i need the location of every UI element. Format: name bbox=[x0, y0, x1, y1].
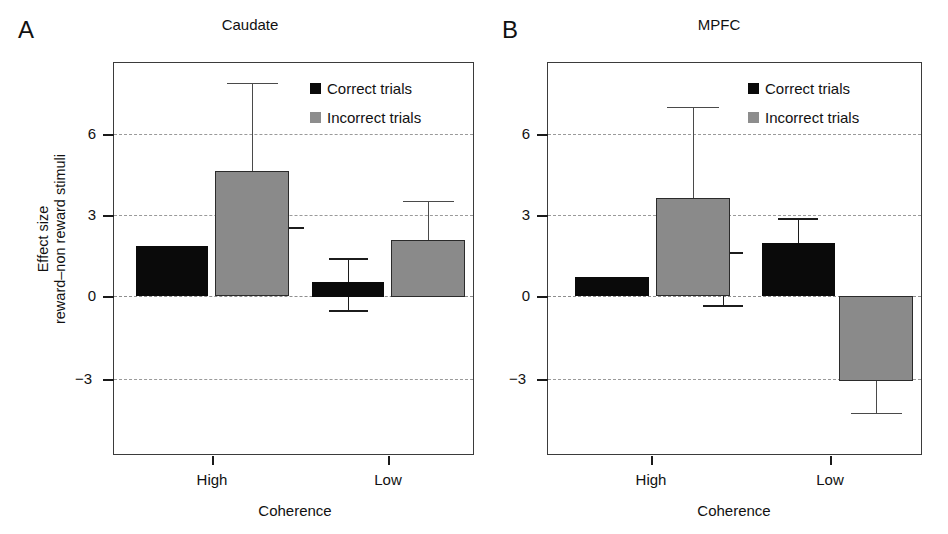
bar-correct-high-b bbox=[575, 277, 649, 296]
y-tick-label-0-b: 0 bbox=[496, 288, 530, 303]
y-tick-3-b bbox=[537, 215, 548, 217]
bar-incorrect-high-b bbox=[656, 198, 730, 296]
errorbar-incorrect-low-b bbox=[876, 381, 877, 413]
x-tick-high-a bbox=[212, 456, 214, 465]
plot-area-caudate: Correct trials Incorrect trials bbox=[113, 62, 474, 455]
errorbar-cap-upper-incorrect-high-a bbox=[227, 83, 278, 84]
legend-item-correct-a: Correct trials bbox=[310, 79, 421, 97]
bar-correct-high-a bbox=[136, 246, 208, 296]
errorbar-incorrect-high-b bbox=[693, 107, 694, 198]
panel-title-mpfc: MPFC bbox=[629, 17, 809, 32]
bar-correct-low-a bbox=[312, 282, 384, 297]
errorbar-cap-upper-incorrect-low-a bbox=[403, 201, 454, 202]
y-tick-label-6-a: 6 bbox=[62, 126, 96, 141]
x-axis-title-b: Coherence bbox=[644, 503, 824, 518]
y-tick-label-neg3-b: −3 bbox=[492, 371, 526, 386]
y-tick-label-3-a: 3 bbox=[62, 207, 96, 222]
x-tick-low-b bbox=[830, 456, 832, 465]
y-tick-label-neg3-a: −3 bbox=[58, 371, 92, 386]
gridline-3-a bbox=[114, 215, 473, 216]
panel-mpfc: B MPFC bbox=[474, 0, 948, 534]
legend-caudate: Correct trials Incorrect trials bbox=[310, 79, 421, 137]
x-tick-label-low-a: Low bbox=[343, 472, 433, 487]
legend-item-incorrect-b: Incorrect trials bbox=[748, 108, 859, 126]
errorbar-incorrect-high-a bbox=[252, 83, 253, 171]
bar-incorrect-low-b bbox=[839, 296, 913, 381]
y-tick-label-6-b: 6 bbox=[496, 126, 530, 141]
x-tick-label-high-b: High bbox=[606, 472, 696, 487]
legend-label-correct-a: Correct trials bbox=[327, 81, 412, 96]
legend-swatch-correct-icon-b bbox=[748, 83, 759, 94]
errorbar-cap-lower-incorrect-low-b bbox=[851, 413, 902, 414]
bar-incorrect-high-a bbox=[215, 171, 289, 296]
legend-swatch-incorrect-icon-b bbox=[748, 112, 759, 123]
y-tick-0-b bbox=[537, 296, 548, 298]
y-tick-3-a bbox=[103, 215, 114, 217]
bar-incorrect-low-a bbox=[391, 240, 465, 297]
legend-label-correct-b: Correct trials bbox=[765, 81, 850, 96]
panel-letter-b: B bbox=[502, 18, 519, 42]
y-tick-neg3-a bbox=[103, 379, 114, 381]
errorbar-correct-low-b bbox=[798, 218, 799, 243]
legend-swatch-correct-icon-a bbox=[310, 83, 321, 94]
y-axis-title-a: Effect size reward–non reward stimuli bbox=[35, 139, 69, 339]
errorbar-cap-upper-correct-low-b bbox=[778, 218, 818, 220]
y-tick-6-a bbox=[103, 134, 114, 136]
x-tick-label-low-b: Low bbox=[785, 472, 875, 487]
y-tick-label-0-a: 0 bbox=[62, 288, 96, 303]
gridline-3-b bbox=[548, 215, 921, 216]
y-tick-6-b bbox=[537, 134, 548, 136]
errorbar-cap-upper-correct-low-a bbox=[329, 258, 368, 260]
y-axis-title-line1-a: Effect size bbox=[35, 206, 51, 273]
x-tick-high-b bbox=[651, 456, 653, 465]
y-tick-label-3-b: 3 bbox=[496, 207, 530, 222]
y-tick-0-a bbox=[103, 296, 114, 298]
legend-item-correct-b: Correct trials bbox=[748, 79, 859, 97]
x-tick-label-high-a: High bbox=[167, 472, 257, 487]
legend-item-incorrect-a: Incorrect trials bbox=[310, 108, 421, 126]
bar-correct-low-b bbox=[762, 243, 835, 296]
errorbar-cap-lower-correct-low-a bbox=[329, 310, 368, 312]
x-tick-low-a bbox=[388, 456, 390, 465]
panel-caudate: A Caudate Effect size reward–non reward … bbox=[0, 0, 474, 534]
x-axis-title-a: Coherence bbox=[205, 503, 385, 518]
y-tick-neg3-b bbox=[537, 379, 548, 381]
legend-swatch-incorrect-icon-a bbox=[310, 112, 321, 123]
errorbar-cap-upper-incorrect-high-b bbox=[667, 107, 719, 108]
gridline-neg3-a bbox=[114, 379, 473, 380]
gridline-6-b bbox=[548, 134, 921, 135]
panel-letter-a: A bbox=[18, 18, 35, 42]
legend-mpfc: Correct trials Incorrect trials bbox=[748, 79, 859, 137]
errorbar-cap-lower-correct-high-b bbox=[703, 305, 743, 307]
errorbar-incorrect-low-a bbox=[428, 201, 429, 240]
legend-label-incorrect-a: Incorrect trials bbox=[327, 110, 421, 125]
legend-label-incorrect-b: Incorrect trials bbox=[765, 110, 859, 125]
panel-title-caudate: Caudate bbox=[160, 17, 340, 32]
figure-root: A Caudate Effect size reward–non reward … bbox=[0, 0, 948, 534]
plot-area-mpfc: Correct trials Incorrect trials bbox=[547, 62, 922, 455]
